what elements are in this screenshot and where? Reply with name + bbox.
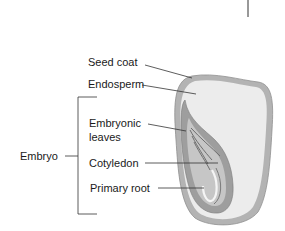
label-seed-coat: Seed coat <box>88 56 138 69</box>
label-endosperm: Endosperm <box>88 78 144 91</box>
seed-coat-leader <box>145 65 192 78</box>
embryo-bracket <box>78 97 97 214</box>
seed-diagram <box>0 0 285 231</box>
label-cotyledon: Cotyledon <box>89 157 139 170</box>
label-embryo: Embryo <box>20 150 58 163</box>
label-embryonic-leaves-line2: leaves <box>89 131 121 144</box>
label-embryonic-leaves-line1: Embryonic <box>89 117 141 130</box>
label-primary-root: Primary root <box>90 182 150 195</box>
